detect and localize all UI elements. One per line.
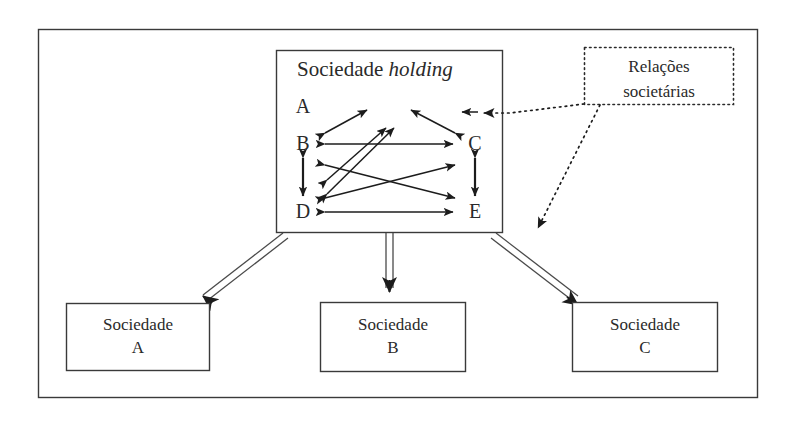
subsidiary-b-name: Sociedade — [321, 314, 465, 337]
node-label-a: A — [291, 96, 315, 116]
node-label-d: D — [291, 201, 315, 221]
holding-title-italic: holding — [389, 57, 453, 81]
subsidiary-c-letter: C — [573, 337, 717, 360]
subsidiary-a-name: Sociedade — [67, 314, 209, 337]
node-label-e: E — [463, 201, 487, 221]
subsidiary-label-b: Sociedade B — [321, 314, 465, 360]
subsidiary-label-a: Sociedade A — [67, 314, 209, 360]
subsidiary-b-letter: B — [321, 337, 465, 360]
legend-line-1: Relações — [591, 55, 727, 80]
holding-title-main: Sociedade — [297, 57, 389, 81]
node-label-b: B — [291, 133, 315, 153]
subsidiary-a-letter: A — [67, 337, 209, 360]
node-label-c: C — [463, 133, 487, 153]
legend-text: Relações societárias — [591, 55, 727, 104]
subsidiary-label-c: Sociedade C — [573, 314, 717, 360]
legend-line-2: societárias — [591, 80, 727, 105]
subsidiary-c-name: Sociedade — [573, 314, 717, 337]
holding-title: Sociedade holding — [297, 59, 453, 80]
